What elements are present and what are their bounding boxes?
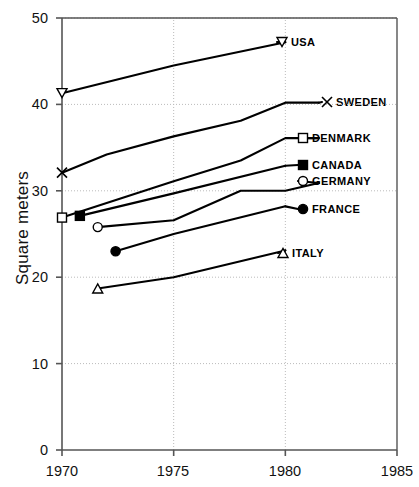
marker-sweden [322,97,332,107]
grid-lines [62,18,397,450]
series-canada [75,166,285,221]
marker-canada [299,161,308,170]
marker-germany [299,177,308,186]
plot-area [0,0,419,487]
marker-france [298,204,307,213]
series-usa [57,42,285,97]
series-denmark [58,138,319,222]
axis-lines [56,18,397,456]
series-france [111,206,285,256]
line-chart: Square meters 50 40 30 20 10 0 1970 1975… [0,0,419,487]
series-italy [93,250,286,293]
marker-denmark [299,134,308,143]
